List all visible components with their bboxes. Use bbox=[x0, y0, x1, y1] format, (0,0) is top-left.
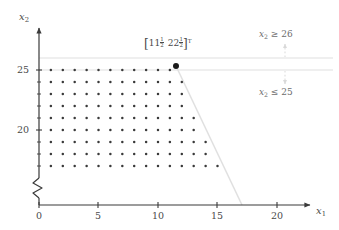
y-axis-label: x2 bbox=[19, 12, 29, 24]
x-tick-label-0: 0 bbox=[36, 211, 42, 221]
x-axis-label: x1 bbox=[316, 206, 326, 218]
x-tick-label-5: 5 bbox=[95, 211, 101, 221]
x-tick-label-20: 20 bbox=[271, 211, 283, 221]
constraint-relation-upper: ≥ 26 bbox=[271, 29, 293, 39]
y-axis bbox=[33, 28, 42, 205]
y-axis-label-subscript: 2 bbox=[25, 16, 29, 24]
y-tick-label-20: 20 bbox=[17, 125, 29, 135]
lattice-points bbox=[50, 69, 219, 168]
marked-point bbox=[173, 63, 179, 69]
x-axis-label-subscript: 1 bbox=[322, 210, 326, 218]
x-tick-label-15: 15 bbox=[211, 211, 223, 221]
x-tick-label-10: 10 bbox=[152, 211, 164, 221]
marked-point-label: [11122212]T bbox=[144, 37, 191, 49]
point-x-integer: 11 bbox=[149, 38, 160, 48]
figure-canvas: x2 x1 0 5 10 15 20 25 20 [11122212]T x2 … bbox=[0, 0, 339, 230]
y-tick-label-25: 25 bbox=[17, 65, 29, 75]
constraint-relation-lower: ≤ 25 bbox=[271, 87, 293, 97]
boundary-line bbox=[176, 66, 242, 205]
transpose-superscript: T bbox=[188, 38, 192, 44]
constraint-label-upper: x2 ≥ 26 bbox=[259, 30, 293, 40]
constraint-label-lower: x2 ≤ 25 bbox=[259, 88, 293, 98]
point-y-integer: 22 bbox=[168, 38, 179, 48]
point-x-fraction: 12 bbox=[160, 37, 163, 49]
